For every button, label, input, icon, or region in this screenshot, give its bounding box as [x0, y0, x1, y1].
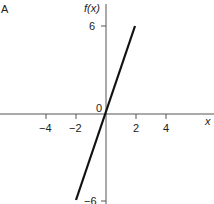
y-axis-label: f(x) — [84, 2, 100, 14]
origin-label: 0 — [96, 102, 102, 114]
x-tick-label: −4 — [39, 122, 52, 134]
x-tick-label: 4 — [163, 122, 169, 134]
x-tick-label: −2 — [69, 122, 82, 134]
y-tick-label: −6 — [84, 195, 97, 204]
panel-label: A — [1, 3, 9, 15]
chart-canvas: A f(x) x 0 −4 −2 2 4 6 −6 — [0, 0, 214, 204]
x-tick-label: 2 — [133, 122, 139, 134]
x-axis-label: x — [204, 115, 211, 127]
y-tick-label: 6 — [89, 20, 95, 32]
